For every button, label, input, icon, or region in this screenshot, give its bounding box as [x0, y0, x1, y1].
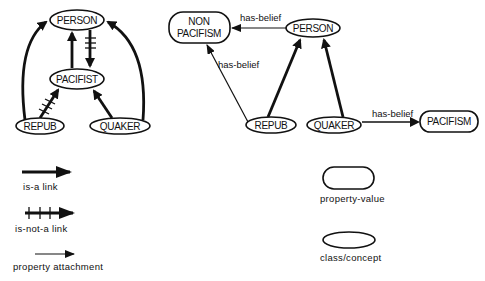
edge-quaker-isa-pacifist	[94, 91, 112, 118]
svg-text:REPUB: REPUB	[24, 121, 58, 132]
svg-text:PERSON: PERSON	[57, 15, 98, 26]
node-pacifism: PACIFISM	[420, 111, 478, 132]
node-person-left: PERSON	[50, 10, 104, 30]
legend: is-a link is-not-a link property attachm…	[13, 167, 385, 272]
svg-text:QUAKER: QUAKER	[314, 120, 355, 131]
legend-isnota-link: is-not-a link	[15, 207, 73, 234]
svg-text:PERSON: PERSON	[293, 23, 334, 34]
svg-text:PACIFISM: PACIFISM	[427, 116, 471, 127]
edge-repub-isa-person	[23, 22, 46, 120]
node-repub-left: REPUB	[16, 118, 64, 134]
svg-text:NON: NON	[188, 16, 209, 27]
svg-text:QUAKER: QUAKER	[100, 121, 141, 132]
node-repub-right: REPUB	[246, 117, 296, 133]
edge-person-isnota-pacifist	[85, 30, 96, 66]
node-quaker-left: QUAKER	[90, 118, 150, 134]
edge-quaker-isa-person	[324, 40, 343, 117]
legend-class-concept: class/concept	[320, 232, 382, 263]
node-non-pacifism: NON PACIFISM	[169, 12, 230, 43]
edge-label-has-belief: has-belief	[240, 12, 282, 23]
svg-text:is-not-a link: is-not-a link	[15, 223, 67, 234]
legend-property-value: property-value	[320, 167, 385, 204]
edge-quaker-isa-person	[108, 22, 144, 120]
node-person-right: PERSON	[286, 19, 340, 37]
legend-property-attachment: property attachment	[13, 254, 103, 272]
legend-isa-link: is-a link	[22, 172, 70, 192]
edge-label-has-belief: has-belief	[218, 59, 260, 70]
node-pacifist-left: PACIFIST	[50, 69, 104, 89]
inheritance-diagram: PERSON PACIFIST REPUB QUAKER has-belief …	[0, 0, 485, 281]
edge-repub-hasbelief-nonpacifism	[207, 45, 248, 122]
right-diagram: has-belief has-belief has-belief NON PAC…	[169, 12, 478, 133]
svg-text:PACIFISM: PACIFISM	[177, 28, 221, 39]
svg-text:is-a link: is-a link	[23, 181, 58, 192]
edge-repub-isa-person	[268, 40, 300, 117]
svg-text:property attachment: property attachment	[13, 261, 103, 272]
svg-text:class/concept: class/concept	[320, 252, 382, 263]
edge-repub-isnota-pacifist	[39, 90, 58, 118]
svg-text:property-value: property-value	[320, 193, 385, 204]
node-quaker-right: QUAKER	[307, 117, 361, 133]
svg-text:PACIFIST: PACIFIST	[56, 74, 98, 85]
left-diagram: PERSON PACIFIST REPUB QUAKER	[16, 10, 150, 134]
edge-label-has-belief: has-belief	[372, 108, 414, 119]
svg-text:REPUB: REPUB	[255, 120, 289, 131]
